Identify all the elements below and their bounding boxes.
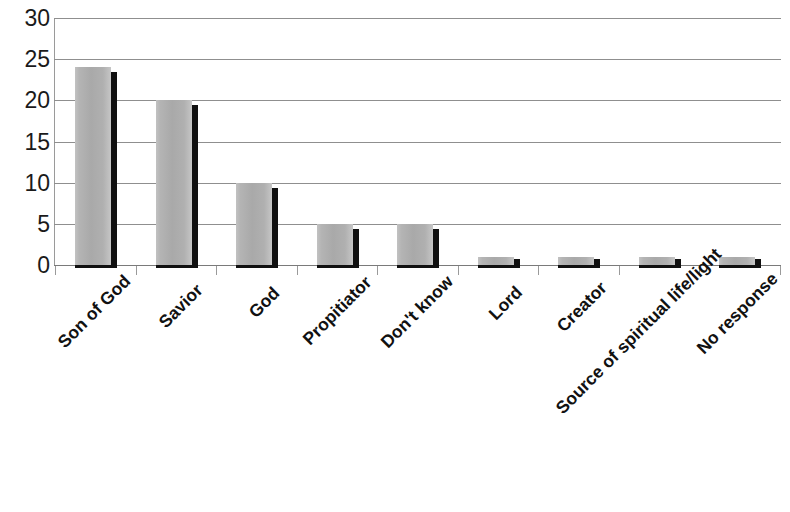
bar[interactable] (317, 224, 353, 265)
x-axis-tick (458, 266, 459, 275)
x-axis-category-label[interactable]: Don't know (378, 272, 457, 351)
x-axis-tick (136, 266, 137, 275)
x-axis-category-label[interactable]: Son of God (55, 272, 134, 351)
x-axis-tick (216, 266, 217, 275)
x-axis-category-label[interactable]: Savior (156, 281, 206, 331)
x-axis-tick (55, 266, 56, 275)
bar[interactable] (639, 257, 675, 265)
bar[interactable] (236, 183, 272, 265)
gridline (54, 18, 781, 19)
x-axis-tick (780, 266, 781, 275)
x-axis-tick (619, 266, 620, 275)
bar-chart: 051015202530 Son of GodSaviorGodPropitia… (0, 0, 790, 512)
y-axis-tick-label: 20 (6, 89, 50, 112)
x-axis-tick (538, 266, 539, 275)
x-axis-category-label[interactable]: God (246, 285, 283, 322)
plot-area (54, 18, 781, 265)
x-axis-category-label[interactable]: Propitiator (300, 273, 375, 348)
y-axis-tick-label: 15 (6, 130, 50, 153)
x-axis-tick (377, 266, 378, 275)
y-axis-tick-label: 0 (6, 254, 50, 277)
gridline (54, 59, 781, 60)
x-axis-category-label[interactable]: No response (694, 270, 781, 357)
x-axis-tick (297, 266, 298, 275)
y-axis-tick-label: 5 (6, 212, 50, 235)
y-axis-tick-label: 25 (6, 48, 50, 71)
bar[interactable] (397, 224, 433, 265)
y-axis-tick-label: 30 (6, 7, 50, 30)
bar[interactable] (478, 257, 514, 265)
x-axis-category-label[interactable]: Source of spiritual life/light (553, 245, 725, 417)
bar[interactable] (75, 67, 111, 265)
bar[interactable] (558, 257, 594, 265)
y-axis-tick-labels: 051015202530 (0, 0, 50, 512)
x-axis-category-label[interactable]: Creator (554, 279, 610, 335)
x-axis-category-label[interactable]: Lord (486, 284, 526, 324)
bar[interactable] (156, 100, 192, 265)
y-axis-tick-label: 10 (6, 171, 50, 194)
